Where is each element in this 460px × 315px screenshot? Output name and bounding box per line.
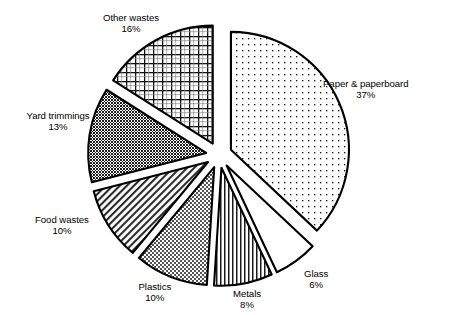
slice-label-name: Other wastes <box>103 12 159 23</box>
slice-label-percent: 37% <box>323 89 409 100</box>
slice-label-percent: 13% <box>27 121 90 132</box>
slice-label-percent: 16% <box>103 23 159 34</box>
slice-label-name: Plastics <box>139 281 172 292</box>
pie-chart: Paper & paperboard37%Glass6%Metals8%Plas… <box>0 0 460 315</box>
slice-label-percent: 10% <box>139 292 172 303</box>
slice-label-percent: 8% <box>233 299 261 310</box>
slice-label-metals: Metals8% <box>233 288 261 311</box>
slice-label-other-wastes: Other wastes16% <box>103 12 159 35</box>
slice-label-name: Glass <box>304 268 328 279</box>
pie-slices <box>88 26 349 286</box>
pie-chart-svg <box>0 0 460 315</box>
slice-label-name: Metals <box>233 288 261 299</box>
slice-label-yard-trimmings: Yard trimmings13% <box>27 110 90 133</box>
slice-label-name: Paper & paperboard <box>323 78 409 89</box>
slice-label-plastics: Plastics10% <box>139 281 172 304</box>
slice-label-glass: Glass6% <box>304 268 328 291</box>
slice-label-percent: 6% <box>304 279 328 290</box>
slice-label-name: Yard trimmings <box>27 110 90 121</box>
slice-label-paper-paperboard: Paper & paperboard37% <box>323 78 409 101</box>
slice-label-food-wastes: Food wastes10% <box>35 214 89 237</box>
slice-label-name: Food wastes <box>35 214 89 225</box>
slice-label-percent: 10% <box>35 225 89 236</box>
